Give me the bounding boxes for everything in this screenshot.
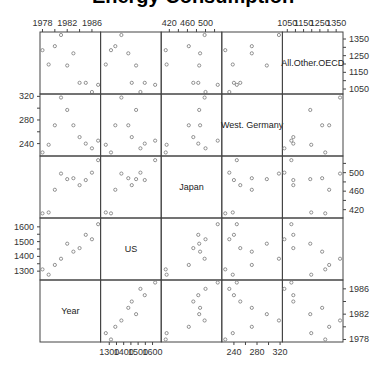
axis-label: 460 [349, 186, 364, 196]
panel-west-germany-vs-all-other-oecd [282, 94, 343, 156]
panel-us-vs-us: US [101, 218, 162, 280]
panel-all-other-oecd-vs-year [40, 32, 101, 94]
data-point [250, 250, 253, 253]
data-point [197, 233, 200, 236]
data-point [127, 177, 130, 180]
data-point [328, 124, 331, 127]
data-point [265, 242, 268, 245]
data-point [277, 319, 280, 322]
data-point [84, 81, 87, 84]
data-point [192, 136, 195, 139]
data-point [338, 172, 341, 175]
data-point [97, 159, 100, 162]
panel-frame [282, 218, 343, 280]
data-point [127, 306, 130, 309]
data-point [203, 319, 206, 322]
data-point [130, 136, 133, 139]
data-point [198, 306, 201, 309]
data-point [321, 306, 324, 309]
panel-frame [161, 280, 222, 342]
data-point [97, 223, 100, 226]
panel-year-vs-japan [161, 280, 222, 342]
data-point [109, 151, 112, 154]
data-point [84, 178, 87, 181]
axis-label: 1986 [349, 284, 369, 294]
data-point [139, 90, 142, 93]
axis-label: 1300 [14, 266, 34, 276]
data-point [109, 212, 112, 215]
panel-frame [222, 218, 283, 280]
data-point [165, 63, 168, 66]
data-point [292, 233, 295, 236]
data-point [78, 81, 81, 84]
data-point [328, 188, 331, 191]
data-point [139, 287, 142, 290]
data-point [265, 64, 268, 67]
data-point [228, 287, 231, 290]
panel-year-vs-all-other-oecd [282, 280, 343, 342]
data-point [235, 281, 238, 284]
data-point [309, 242, 312, 245]
data-point [283, 171, 286, 174]
data-point [338, 319, 341, 322]
data-point [187, 124, 190, 127]
data-point [250, 306, 253, 309]
data-point [59, 96, 62, 99]
data-point [231, 332, 234, 335]
data-point [239, 300, 242, 303]
panel-all-other-oecd-vs-japan [161, 32, 222, 94]
panel-frame [40, 156, 101, 218]
data-point [134, 313, 137, 316]
data-point [130, 81, 133, 84]
data-point [66, 242, 69, 245]
axis-label: 240 [19, 139, 34, 149]
panel-west-germany-vs-year [40, 94, 101, 156]
data-point [114, 188, 117, 191]
data-point [198, 242, 201, 245]
data-point [187, 45, 190, 48]
data-point [204, 147, 207, 150]
data-point [198, 313, 201, 316]
panel-west-germany-vs-us [101, 94, 162, 156]
data-point [228, 171, 231, 174]
panel-frame [40, 218, 101, 280]
data-point [53, 263, 56, 266]
data-point [250, 52, 253, 55]
data-point [250, 263, 253, 266]
data-point [154, 139, 157, 142]
axis-label: 1500 [14, 237, 34, 247]
data-point [109, 338, 112, 341]
data-point [228, 238, 231, 241]
data-point [127, 52, 130, 55]
data-point [228, 90, 231, 93]
axis-label: 460 [180, 18, 195, 28]
data-point [72, 177, 75, 180]
panel-frame [222, 32, 283, 94]
data-point [143, 142, 146, 145]
panel-us-vs-west-germany [222, 218, 283, 280]
data-point [47, 273, 50, 276]
data-point [120, 172, 123, 175]
data-point [139, 147, 142, 150]
data-point [90, 238, 93, 241]
data-point [165, 143, 168, 146]
data-point [203, 257, 206, 260]
data-point [216, 281, 219, 284]
data-point [134, 108, 137, 111]
axis-label: 320 [273, 347, 288, 357]
data-point [216, 139, 219, 142]
data-point [104, 63, 107, 66]
data-point [203, 33, 206, 36]
axis-label: 1600 [14, 222, 34, 232]
data-point [277, 257, 280, 260]
data-point [53, 188, 56, 191]
data-point [164, 338, 167, 341]
data-point [164, 151, 167, 154]
panel-us-vs-japan [161, 218, 222, 280]
panel-japan-vs-year [40, 156, 101, 218]
data-point [114, 325, 117, 328]
data-point [72, 124, 75, 127]
axis-label: 1982 [349, 309, 369, 319]
data-point [164, 268, 167, 271]
data-point [232, 294, 235, 297]
